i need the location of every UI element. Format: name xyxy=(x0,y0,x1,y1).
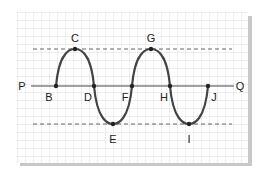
wave-diagram: P Q B C D E F G H I J xyxy=(0,0,260,175)
label-c: C xyxy=(71,32,79,44)
point-d xyxy=(92,84,96,88)
label-p: P xyxy=(18,80,25,92)
label-d: D xyxy=(84,91,92,103)
point-g xyxy=(149,47,153,51)
label-q: Q xyxy=(236,80,245,92)
label-b: B xyxy=(45,91,52,103)
point-c xyxy=(73,47,77,51)
point-i xyxy=(187,122,191,126)
label-h: H xyxy=(160,91,168,103)
label-j: J xyxy=(211,91,217,103)
point-b xyxy=(54,84,58,88)
point-f xyxy=(130,84,134,88)
label-e: E xyxy=(109,133,116,145)
point-e xyxy=(111,122,115,126)
label-i: I xyxy=(187,133,190,145)
label-g: G xyxy=(147,32,156,44)
point-h xyxy=(168,84,172,88)
point-j xyxy=(206,84,210,88)
label-f: F xyxy=(122,91,129,103)
